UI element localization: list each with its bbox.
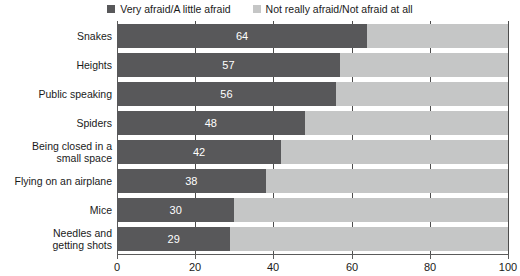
x-tick-label: 40 [267, 261, 279, 273]
bar-segment-not-afraid[interactable] [340, 53, 508, 77]
x-tick-mark [117, 254, 118, 259]
category-label: Flying on an airplane [0, 175, 112, 187]
stacked-bar-chart: Very afraid/A little afraidNot really af… [0, 0, 520, 276]
bar-segment-not-afraid[interactable] [266, 169, 508, 193]
bar-segment-not-afraid[interactable] [367, 24, 508, 48]
x-tick-label: 100 [499, 261, 517, 273]
bar-segment-not-afraid[interactable] [336, 82, 508, 106]
x-tick-label: 0 [114, 261, 120, 273]
bar-value-label: 57 [117, 53, 340, 77]
x-tick-mark [508, 254, 509, 259]
category-label: Spiders [0, 117, 112, 129]
category-label: Needles andgetting shots [0, 227, 112, 251]
bar-value-label: 64 [117, 24, 367, 48]
category-label: Snakes [0, 30, 112, 42]
bar-row[interactable]: 30 [117, 198, 508, 222]
legend-label: Not really afraid/Not afraid at all [266, 4, 413, 15]
x-tick-mark [352, 254, 353, 259]
category-label: Being closed in asmall space [0, 140, 112, 164]
bar-row[interactable]: 57 [117, 53, 508, 77]
x-axis-ticks: 020406080100 [117, 254, 509, 276]
legend-swatch-icon [253, 5, 261, 13]
category-label: Public speaking [0, 88, 112, 100]
bar-row[interactable]: 64 [117, 24, 508, 48]
legend-entry-0[interactable]: Very afraid/A little afraid [107, 4, 230, 15]
bar-value-label: 29 [117, 227, 230, 251]
legend-swatch-icon [107, 5, 115, 13]
x-tick-label: 80 [424, 261, 436, 273]
bar-row[interactable]: 48 [117, 111, 508, 135]
bar-row[interactable]: 38 [117, 169, 508, 193]
bar-value-label: 42 [117, 140, 281, 164]
legend-entry-1[interactable]: Not really afraid/Not afraid at all [253, 4, 413, 15]
category-label: Heights [0, 59, 112, 71]
bar-value-label: 48 [117, 111, 305, 135]
category-axis-labels: SnakesHeightsPublic speakingSpidersBeing… [0, 21, 112, 254]
category-label: Mice [0, 204, 112, 216]
bars-layer: 6457564842383029 [117, 21, 508, 254]
bar-value-label: 38 [117, 169, 266, 193]
plot-area: 6457564842383029 [117, 21, 508, 254]
x-tick-mark [273, 254, 274, 259]
x-tick-label: 20 [189, 261, 201, 273]
bar-segment-not-afraid[interactable] [281, 140, 508, 164]
bar-row[interactable]: 29 [117, 227, 508, 251]
x-tick-mark [195, 254, 196, 259]
x-tick-label: 60 [346, 261, 358, 273]
x-tick-mark [430, 254, 431, 259]
chart-legend: Very afraid/A little afraidNot really af… [0, 0, 520, 18]
bar-row[interactable]: 42 [117, 140, 508, 164]
legend-label: Very afraid/A little afraid [120, 4, 230, 15]
bar-value-label: 30 [117, 198, 234, 222]
gridline-100 [508, 21, 509, 254]
bar-segment-not-afraid[interactable] [305, 111, 508, 135]
bar-segment-not-afraid[interactable] [234, 198, 508, 222]
bar-value-label: 56 [117, 82, 336, 106]
bar-row[interactable]: 56 [117, 82, 508, 106]
bar-segment-not-afraid[interactable] [230, 227, 508, 251]
